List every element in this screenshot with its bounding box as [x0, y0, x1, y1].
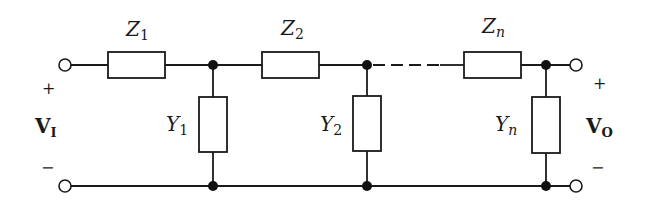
input-terminal-bottom — [59, 180, 71, 192]
junction-node — [208, 60, 218, 70]
label-vi: VI — [34, 114, 57, 140]
label-z1: Z1 — [125, 17, 149, 43]
input-minus-sign: − — [41, 158, 54, 177]
input-plus-sign: + — [42, 79, 55, 98]
impedance-z1 — [108, 52, 165, 78]
output-minus-sign: − — [591, 158, 604, 177]
ladder-network-diagram: Z1 Z2 Zn Y1 Y2 Yn + VI − + VO − — [0, 0, 645, 206]
junction-node — [541, 181, 551, 191]
admittance-y2 — [353, 96, 381, 151]
label-y1: Y1 — [166, 112, 188, 138]
output-terminal-top — [570, 59, 582, 71]
junction-node — [362, 60, 372, 70]
admittance-y1 — [199, 97, 227, 152]
label-yn: Yn — [495, 112, 517, 138]
output-terminal-bottom — [570, 180, 582, 192]
label-zn: Zn — [481, 14, 505, 40]
impedance-z2 — [262, 52, 319, 78]
label-vo: VO — [585, 114, 613, 140]
input-terminal-top — [59, 59, 71, 71]
output-plus-sign: + — [593, 74, 606, 93]
label-z2: Z2 — [280, 16, 304, 42]
junction-node — [208, 181, 218, 191]
junction-node — [362, 181, 372, 191]
admittance-yn — [532, 97, 560, 153]
impedance-zn — [464, 52, 521, 78]
label-y2: Y2 — [320, 112, 342, 138]
junction-node — [541, 60, 551, 70]
